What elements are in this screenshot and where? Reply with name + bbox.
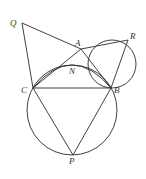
segment-CP — [33, 88, 73, 155]
small-circle — [88, 40, 136, 88]
label-B: B — [114, 85, 120, 95]
label-A: A — [74, 38, 81, 48]
segment-PB — [73, 88, 111, 155]
label-C: C — [21, 85, 28, 95]
segment-RB — [111, 40, 128, 88]
label-Q: Q — [10, 18, 17, 28]
label-N: N — [68, 66, 76, 76]
segment-QA — [22, 23, 81, 49]
segment-QC — [22, 23, 33, 88]
label-R: R — [129, 31, 136, 41]
geometry-figure: Q A R N C B P — [0, 0, 146, 179]
label-P: P — [68, 156, 75, 166]
